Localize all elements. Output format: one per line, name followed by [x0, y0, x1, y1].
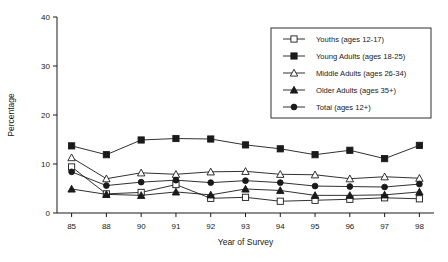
x-tick-label: 93 — [241, 222, 250, 231]
x-axis-title: Year of Survey — [218, 237, 274, 247]
data-point — [243, 178, 249, 184]
data-point — [277, 180, 283, 186]
data-point — [172, 188, 179, 195]
x-tick-label: 96 — [345, 222, 354, 231]
x-tick-label: 91 — [171, 222, 180, 231]
legend-marker — [291, 53, 297, 59]
line-chart: 0102030408588909192939495969798Year of S… — [0, 0, 448, 262]
x-tick-label: 94 — [276, 222, 285, 231]
x-tick-label: 92 — [206, 222, 215, 231]
legend-label: Total (ages 12+) — [316, 103, 371, 112]
data-point — [416, 181, 422, 187]
data-point — [69, 143, 75, 149]
x-tick-label: 88 — [102, 222, 111, 231]
legend-label: Young Adults (ages 18-25) — [316, 52, 406, 61]
data-point — [312, 183, 318, 189]
data-point — [382, 184, 388, 190]
data-point — [69, 169, 75, 175]
data-point — [312, 152, 318, 158]
y-tick-label: 20 — [41, 111, 50, 120]
data-point — [103, 183, 109, 189]
data-point — [242, 194, 248, 200]
data-point — [173, 135, 179, 141]
data-point — [68, 185, 75, 192]
data-point — [347, 184, 353, 190]
data-point — [382, 156, 388, 162]
y-tick-label: 0 — [46, 209, 51, 218]
data-point — [103, 152, 109, 158]
x-tick-label: 98 — [415, 222, 424, 231]
x-tick-label: 90 — [137, 222, 146, 231]
data-point — [277, 198, 283, 204]
chart-container: 0102030408588909192939495969798Year of S… — [0, 0, 448, 262]
y-axis-title: Percentage — [6, 93, 16, 137]
data-point — [242, 142, 248, 148]
legend-label: Older Adults (ages 35+) — [316, 86, 396, 95]
x-tick-label: 95 — [311, 222, 320, 231]
data-point — [347, 147, 353, 153]
legend-label: Middle Adults (ages 26-34) — [316, 69, 407, 78]
data-point — [416, 196, 422, 202]
data-point — [208, 180, 214, 186]
legend-marker — [291, 36, 297, 42]
data-point — [138, 137, 144, 143]
legend-marker — [291, 104, 297, 110]
data-point — [68, 154, 75, 161]
y-tick-label: 40 — [41, 13, 50, 22]
x-tick-label: 85 — [67, 222, 76, 231]
legend-label: Youths (ages 12-17) — [316, 35, 385, 44]
data-point — [173, 177, 179, 183]
data-point — [416, 188, 423, 195]
x-tick-label: 97 — [380, 222, 389, 231]
data-point — [138, 179, 144, 185]
data-point — [416, 142, 422, 148]
data-point — [277, 146, 283, 152]
data-point — [208, 136, 214, 142]
y-tick-label: 30 — [41, 62, 50, 71]
y-tick-label: 10 — [41, 160, 50, 169]
